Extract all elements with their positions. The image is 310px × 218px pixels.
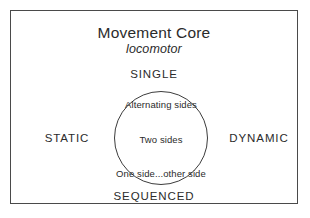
core-item: Alternating sides: [125, 99, 197, 110]
movement-core-diagram: Movement Core locomotor SINGLE STATIC DY…: [0, 0, 310, 218]
pole-label-static: STATIC: [23, 132, 111, 144]
diagram-frame: Movement Core locomotor SINGLE STATIC DY…: [10, 10, 298, 204]
diagram-heading: Movement Core locomotor: [11, 24, 297, 57]
diagram-subtitle: locomotor: [11, 42, 297, 57]
core-item: One side...other side: [116, 168, 206, 179]
core-item: Two sides: [139, 134, 182, 145]
diagram-title: Movement Core: [11, 24, 297, 42]
pole-label-dynamic: DYNAMIC: [211, 132, 307, 144]
pole-label-single: SINGLE: [11, 68, 297, 80]
pole-label-sequenced: SEQUENCED: [11, 190, 297, 202]
